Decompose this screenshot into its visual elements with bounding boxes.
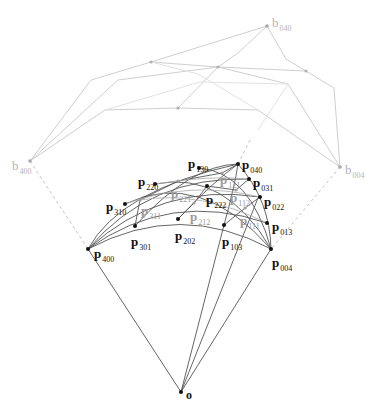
label-origin: o (186, 386, 192, 402)
label-p220-subscript: 220 (146, 183, 158, 192)
label-p222-base: p (206, 192, 213, 207)
surface-point-p221 (176, 179, 179, 182)
label-p310-subscript: 310 (114, 208, 126, 217)
label-p221-subscript: 221 (179, 195, 191, 204)
label-p004: p004 (272, 254, 292, 273)
origin-point (179, 390, 183, 394)
diagram-svg (0, 0, 379, 409)
surface-point-p022 (258, 195, 262, 199)
control-net (30, 26, 340, 167)
surface-point-p103 (222, 223, 226, 227)
label-p031: p031 (253, 174, 273, 193)
label-p311: p311 (141, 202, 161, 221)
label-p212: p212 (190, 208, 210, 227)
label-b004-base: b (345, 162, 352, 177)
label-p013: p013 (272, 218, 292, 237)
label-p221-base: p (171, 186, 178, 201)
label-p040-base: p (242, 157, 249, 172)
label-b040-subscript: 040 (280, 24, 292, 33)
label-p310-base: p (106, 199, 113, 214)
label-p311-subscript: 311 (149, 212, 161, 221)
surface-point-p013 (265, 221, 269, 225)
label-b004: b004 (345, 161, 365, 180)
label-p121-base: p (220, 172, 227, 187)
label-p111-base: p (240, 213, 247, 228)
label-b040: b040 (272, 14, 292, 33)
label-p031-base: p (253, 175, 260, 190)
label-p310: p310 (106, 198, 126, 217)
label-p013-subscript: 013 (280, 228, 292, 237)
label-p112: p112 (230, 189, 250, 208)
surface-point-p222 (205, 184, 209, 188)
label-p103-base: p (222, 234, 229, 249)
control-net-point (304, 69, 307, 72)
label-p103: p103 (222, 233, 242, 252)
label-p111: p111 (240, 212, 260, 231)
label-p400-base: p (94, 246, 101, 261)
label-b040-base: b (272, 15, 279, 30)
label-p220-base: p (138, 174, 145, 189)
control-point-b040 (265, 24, 269, 28)
label-p112-base: p (230, 190, 237, 205)
label-p400: p400 (94, 245, 114, 264)
surface-point-p031 (247, 177, 251, 181)
label-p004-subscript: 004 (280, 264, 292, 273)
label-p221: p221 (171, 185, 191, 204)
label-p301-base: p (131, 234, 138, 249)
label-p040: p040 (242, 156, 262, 175)
label-p130-base: p (188, 156, 195, 171)
label-p212-base: p (190, 209, 197, 224)
control-net-point (149, 60, 152, 63)
surface-point-p004 (269, 247, 273, 251)
label-b400-base: b (12, 158, 19, 173)
label-p202-subscript: 202 (183, 237, 195, 246)
label-p111-subscript: 111 (248, 222, 259, 231)
surface-point-p400 (86, 247, 90, 251)
label-p202: p202 (175, 227, 195, 246)
label-p112-subscript: 112 (238, 199, 250, 208)
control-point-b004 (338, 165, 342, 169)
label-b400: b400 (12, 157, 32, 176)
label-b400-subscript: 400 (20, 167, 32, 176)
label-p400-subscript: 400 (102, 255, 114, 264)
label-origin-base: o (186, 388, 192, 402)
label-p022: p022 (264, 193, 284, 212)
label-p022-base: p (264, 194, 271, 209)
label-p202-base: p (175, 228, 182, 243)
control-net-point (176, 106, 179, 109)
label-p103-subscript: 103 (230, 243, 242, 252)
surface-point-p212 (192, 201, 195, 204)
label-p222-subscript: 222 (214, 201, 226, 210)
label-p212-subscript: 212 (198, 218, 210, 227)
label-p013-base: p (272, 219, 279, 234)
label-p130: p130 (188, 155, 208, 174)
label-p022-subscript: 022 (272, 203, 284, 212)
label-p301: p301 (131, 233, 151, 252)
surface-point-p040 (236, 162, 240, 166)
label-p121: p121 (220, 171, 240, 190)
label-p130-subscript: 130 (196, 165, 208, 174)
surface-point-p202 (176, 217, 180, 221)
label-p031-subscript: 031 (261, 184, 273, 193)
label-b004-subscript: 004 (353, 171, 365, 180)
label-p220: p220 (138, 173, 158, 192)
label-p311-base: p (141, 203, 148, 218)
points-layer (28, 24, 342, 394)
surface-point-p301 (133, 224, 137, 228)
control-net-point (216, 65, 219, 68)
diagram-canvas: b040b004b400p400p004p040p130p220p310p031… (0, 0, 379, 409)
label-p301-subscript: 301 (139, 243, 151, 252)
label-p004-base: p (272, 255, 279, 270)
